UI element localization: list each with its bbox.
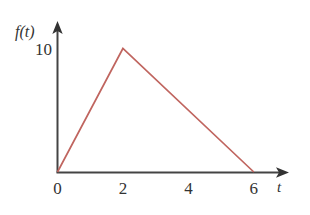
function-plot-figure: f(t) t 10 0 2 4 6 <box>0 0 310 215</box>
x-tick-label-4: 4 <box>175 180 201 197</box>
y-tick-label-10: 10 <box>22 41 52 58</box>
x-tick-label-6: 6 <box>241 180 267 197</box>
function-curve <box>58 49 254 173</box>
y-axis-label: f(t) <box>15 24 35 40</box>
x-tick-label-0: 0 <box>45 180 71 197</box>
x-axis-label: t <box>277 180 281 195</box>
x-tick-label-2: 2 <box>110 180 136 197</box>
